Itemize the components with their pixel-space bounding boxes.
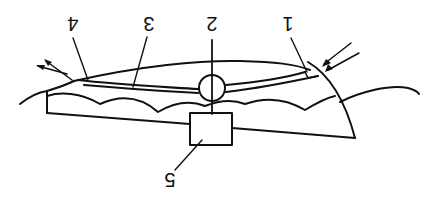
svg-text:2: 2	[206, 13, 217, 35]
leader-line-5	[175, 140, 202, 170]
technical-diagram: 4 3 2 1 5	[0, 0, 424, 203]
label-2: 2	[206, 13, 217, 35]
svg-text:4: 4	[67, 13, 78, 35]
label-1: 1	[282, 13, 293, 35]
label-4: 4	[67, 13, 78, 35]
svg-text:5: 5	[164, 169, 175, 191]
outgoing-arrows-icon	[36, 59, 72, 80]
svg-text:1: 1	[282, 13, 293, 35]
surface-curve-right	[340, 87, 419, 102]
body-top-left	[47, 81, 74, 91]
component-box	[190, 113, 232, 145]
label-3: 3	[143, 13, 154, 35]
leader-line-4	[73, 38, 88, 80]
incoming-arrows-icon	[322, 43, 359, 72]
label-5: 5	[164, 169, 175, 191]
channel-top-right	[226, 72, 305, 85]
body-right-edge	[308, 62, 355, 138]
leader-line-3	[133, 37, 147, 87]
svg-text:3: 3	[143, 13, 154, 35]
channel-tip	[305, 72, 318, 78]
scalloped-wall	[47, 94, 335, 112]
channel-top-left	[78, 80, 198, 89]
surface-curve-left	[20, 91, 47, 104]
diagram-drawing	[20, 37, 419, 170]
body-bottom-right	[232, 128, 355, 138]
body-bottom-left	[47, 113, 190, 124]
